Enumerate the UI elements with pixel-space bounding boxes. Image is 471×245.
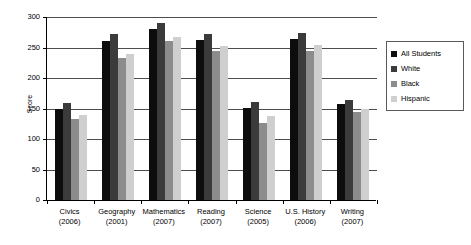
legend-item: Hispanic bbox=[391, 91, 460, 106]
bar-group bbox=[243, 17, 275, 200]
x-axis-tick bbox=[47, 200, 48, 204]
bar bbox=[196, 40, 204, 200]
bar bbox=[165, 41, 173, 200]
x-axis-label-name: Reading bbox=[187, 207, 234, 217]
bar bbox=[63, 103, 71, 200]
legend-item: Black bbox=[391, 76, 460, 91]
x-axis-label: Science(2005) bbox=[235, 207, 282, 227]
bar bbox=[157, 23, 165, 201]
bar bbox=[55, 109, 63, 201]
bar bbox=[220, 46, 228, 200]
x-axis-label: U.S. History(2006) bbox=[282, 207, 329, 227]
bar-chart: Score 050100150200250300 Civics(2006)Geo… bbox=[0, 0, 471, 245]
legend-item-label: All Students bbox=[401, 49, 441, 58]
bar bbox=[149, 29, 157, 200]
x-axis-label: Reading(2007) bbox=[187, 207, 234, 227]
x-axis-label-name: Geography bbox=[93, 207, 140, 217]
bar bbox=[337, 104, 345, 200]
y-axis-tick bbox=[43, 48, 47, 49]
x-axis-label-year: (2007) bbox=[329, 217, 376, 227]
plot-area bbox=[46, 17, 376, 201]
legend-item: All Students bbox=[391, 46, 460, 61]
x-axis-label-year: (2005) bbox=[235, 217, 282, 227]
bar bbox=[212, 51, 220, 200]
bar bbox=[306, 51, 314, 200]
x-axis-tick bbox=[283, 200, 284, 204]
x-axis-tick bbox=[236, 200, 237, 204]
y-axis-tick-label: 0 bbox=[12, 196, 40, 204]
bar bbox=[204, 34, 212, 200]
x-axis-label-name: Science bbox=[235, 207, 282, 217]
legend-item-label: Black bbox=[401, 79, 419, 88]
x-axis-label-year: (2007) bbox=[187, 217, 234, 227]
chart-legend: All StudentsWhiteBlackHispanic bbox=[386, 41, 464, 111]
bar bbox=[361, 109, 369, 200]
y-axis-tick-label: 50 bbox=[12, 166, 40, 174]
x-axis-tick bbox=[330, 200, 331, 204]
y-axis-tick-label: 150 bbox=[12, 105, 40, 113]
bar bbox=[126, 54, 134, 200]
x-axis-tick bbox=[377, 200, 378, 204]
x-axis-label: Geography(2001) bbox=[93, 207, 140, 227]
x-axis-label-year: (2007) bbox=[140, 217, 187, 227]
y-axis-tick-label: 200 bbox=[12, 74, 40, 82]
bar-group bbox=[102, 17, 134, 200]
bar bbox=[102, 41, 110, 200]
legend-item-label: Hispanic bbox=[401, 94, 430, 103]
legend-swatch-icon bbox=[391, 66, 397, 72]
legend-swatch-icon bbox=[391, 51, 397, 57]
x-axis-label-year: (2001) bbox=[93, 217, 140, 227]
x-axis-label-year: (2006) bbox=[282, 217, 329, 227]
x-axis-label-name: Civics bbox=[46, 207, 93, 217]
bar bbox=[314, 45, 322, 200]
bar bbox=[259, 123, 267, 200]
y-axis-tick-label: 300 bbox=[12, 13, 40, 21]
bar-group bbox=[290, 17, 322, 200]
bar bbox=[173, 37, 181, 200]
y-axis-tick bbox=[43, 78, 47, 79]
x-axis-label-year: (2006) bbox=[46, 217, 93, 227]
y-axis-tick-label: 100 bbox=[12, 135, 40, 143]
bar bbox=[267, 116, 275, 200]
y-axis-tick bbox=[43, 109, 47, 110]
bar bbox=[118, 58, 126, 200]
bar-group bbox=[55, 17, 87, 200]
x-axis-label: Mathematics(2007) bbox=[140, 207, 187, 227]
legend-swatch-icon bbox=[391, 81, 397, 87]
bar bbox=[353, 112, 361, 200]
bar bbox=[345, 100, 353, 200]
bar bbox=[251, 102, 259, 200]
bar-group bbox=[149, 17, 181, 200]
y-axis-tick bbox=[43, 139, 47, 140]
bar-group bbox=[337, 17, 369, 200]
x-axis-label-name: Writing bbox=[329, 207, 376, 217]
y-axis-tick bbox=[43, 17, 47, 18]
x-axis-label-name: U.S. History bbox=[282, 207, 329, 217]
x-axis-tick bbox=[94, 200, 95, 204]
legend-swatch-icon bbox=[391, 96, 397, 102]
legend-item-label: White bbox=[401, 64, 420, 73]
x-axis-label: Writing(2007) bbox=[329, 207, 376, 227]
x-axis-label: Civics(2006) bbox=[46, 207, 93, 227]
bar bbox=[110, 34, 118, 200]
bar bbox=[79, 115, 87, 200]
bar bbox=[243, 108, 251, 200]
bar-group bbox=[196, 17, 228, 200]
x-axis-tick bbox=[188, 200, 189, 204]
y-axis-tick bbox=[43, 170, 47, 171]
bar bbox=[290, 39, 298, 200]
y-axis-tick-label: 250 bbox=[12, 44, 40, 52]
x-axis-tick bbox=[141, 200, 142, 204]
bar bbox=[298, 33, 306, 200]
x-axis-label-name: Mathematics bbox=[140, 207, 187, 217]
legend-item: White bbox=[391, 61, 460, 76]
bar bbox=[71, 119, 79, 200]
